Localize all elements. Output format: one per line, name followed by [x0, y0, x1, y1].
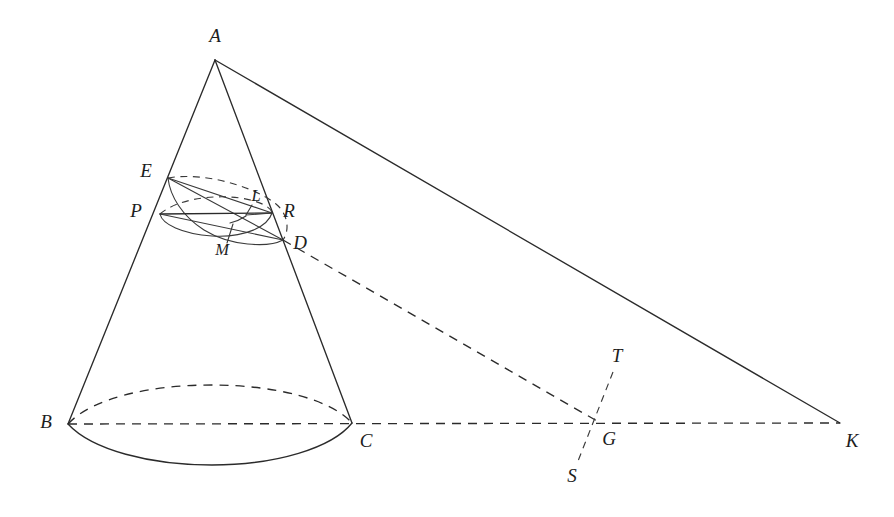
- line-D-to-G: [283, 240, 597, 421]
- cone-right-edge: [215, 60, 352, 423]
- label-R: R: [282, 200, 295, 221]
- label-M: M: [214, 240, 230, 259]
- base-diameter-line: [68, 423, 840, 424]
- label-G: G: [602, 428, 616, 449]
- label-A: A: [207, 25, 221, 46]
- label-D: D: [292, 232, 307, 253]
- geometry-figure: A B C D E G K L M P R S T: [0, 0, 894, 517]
- cone-left-edge: [68, 60, 215, 424]
- arc-LM: [230, 216, 246, 223]
- label-K: K: [845, 430, 860, 451]
- label-B: B: [40, 411, 52, 432]
- label-L: L: [250, 186, 260, 205]
- label-C: C: [360, 430, 373, 451]
- base-front-arc: [68, 423, 352, 465]
- label-P: P: [129, 200, 142, 221]
- label-S: S: [567, 465, 577, 486]
- apex-to-k-line: [215, 60, 840, 423]
- label-E: E: [139, 160, 152, 181]
- label-T: T: [612, 345, 624, 366]
- base-back-arc: [68, 385, 352, 424]
- section-major-axis-ED: [168, 178, 283, 240]
- cone-section-diagram: A B C D E G K L M P R S T: [0, 0, 894, 517]
